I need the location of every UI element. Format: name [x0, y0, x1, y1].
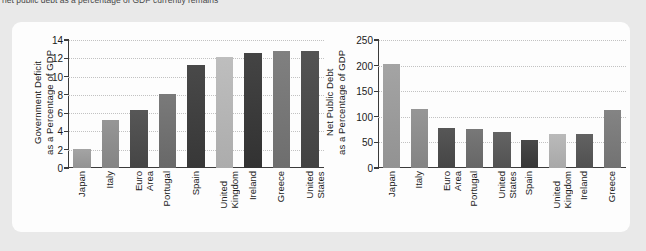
- bar: [466, 129, 483, 168]
- y-tick-label: 10: [52, 71, 63, 82]
- chart-card: Government Deficit as a Percentage of GD…: [12, 22, 630, 232]
- category-label: Portugal: [469, 171, 480, 206]
- category-label: United Kingdom: [219, 171, 240, 209]
- category-labels-left: JapanItalyEuro AreaPortugalSpainUnited K…: [68, 171, 324, 243]
- category-label: United Kingdom: [552, 171, 573, 209]
- bar: [604, 110, 621, 168]
- bar: [438, 128, 455, 168]
- category-label: Spain: [524, 171, 535, 195]
- caption-strip: net public debt as a percentage of GDP c…: [0, 0, 646, 14]
- plot-area-left: 02468101214 JapanItalyEuro AreaPortugalS…: [68, 40, 324, 168]
- panel-net-public-debt: Net Public Debt as a Percentage of GDP 0…: [318, 22, 630, 232]
- bars-right: [378, 40, 626, 168]
- y-tick-label: 150: [356, 86, 373, 97]
- category-label: Euro Area: [134, 171, 155, 191]
- bar: [383, 64, 400, 168]
- category-labels-right: JapanItalyEuro AreaPortugalUnited States…: [378, 171, 626, 243]
- panel-government-deficit: Government Deficit as a Percentage of GD…: [12, 22, 330, 232]
- category-label: Italy: [105, 171, 116, 188]
- y-axis-title-right: Net Public Debt as a Percentage of GDP: [324, 34, 347, 170]
- category-label: Japan: [77, 171, 88, 197]
- bar: [549, 134, 566, 168]
- bar: [159, 94, 177, 168]
- bar: [102, 120, 120, 168]
- y-tick-label: 4: [57, 126, 63, 137]
- bar: [493, 132, 510, 168]
- y-tick-label: 100: [356, 111, 373, 122]
- category-label: Euro Area: [442, 171, 463, 191]
- bar: [244, 53, 262, 168]
- bar: [576, 134, 593, 168]
- bar: [73, 149, 91, 168]
- y-tick-label: 6: [57, 108, 63, 119]
- caption-text: net public debt as a percentage of GDP c…: [2, 0, 218, 5]
- category-label: Japan: [387, 171, 398, 197]
- bar: [301, 51, 319, 168]
- category-label: Spain: [191, 171, 202, 195]
- y-tick-label: 14: [52, 35, 63, 46]
- y-tick-label: 250: [356, 35, 373, 46]
- bar: [273, 51, 291, 168]
- y-tick-label: 50: [362, 137, 373, 148]
- category-label: Ireland: [248, 171, 259, 200]
- y-tick-label: 2: [57, 144, 63, 155]
- plot-area-right: 050100150200250 JapanItalyEuro AreaPortu…: [378, 40, 626, 168]
- category-label: Portugal: [162, 171, 173, 206]
- bar: [187, 65, 205, 168]
- category-label: Greece: [607, 171, 618, 202]
- chart-figure: net public debt as a percentage of GDP c…: [0, 0, 646, 251]
- category-label: Italy: [414, 171, 425, 188]
- bar: [521, 140, 538, 168]
- y-tick-label: 0: [367, 163, 373, 174]
- y-tick-label: 0: [57, 163, 63, 174]
- category-label: Ireland: [579, 171, 590, 200]
- bar: [411, 109, 428, 168]
- category-label: United States: [497, 171, 518, 198]
- category-label: Greece: [276, 171, 287, 202]
- bar: [130, 110, 148, 168]
- y-tick-label: 8: [57, 89, 63, 100]
- bars-left: [68, 40, 324, 168]
- y-tick-label: 200: [356, 60, 373, 71]
- bar: [216, 57, 234, 168]
- y-tick-label: 12: [52, 53, 63, 64]
